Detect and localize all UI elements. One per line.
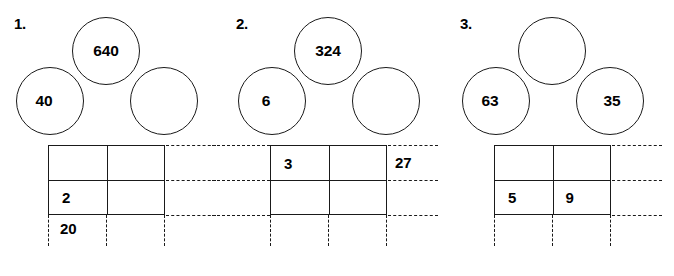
dashed-line-right-middle — [612, 180, 662, 181]
grid: 5 9 — [494, 145, 611, 215]
grid-horizontal-divider — [495, 180, 610, 181]
dashed-line-right-top — [612, 145, 662, 146]
circle-right[interactable] — [352, 67, 420, 135]
dashed-line-right-bottom — [388, 215, 438, 216]
circle-top[interactable]: 324 — [294, 17, 362, 85]
problem-3: 3. 63 35 5 9 — [446, 0, 671, 276]
problem-2: 2. 324 6 3 — [222, 0, 447, 276]
grid-cell-bottom-right[interactable]: 9 — [553, 180, 611, 214]
dashed-line-bottom-2 — [328, 215, 329, 246]
dashed-line-left-top — [212, 145, 270, 146]
dashed-line-right-bottom — [166, 215, 216, 216]
dashed-line-right-bottom — [612, 215, 662, 216]
dashed-line-left-bottom — [212, 215, 270, 216]
circle-top[interactable] — [518, 17, 586, 85]
dashed-line-left-middle — [212, 180, 270, 181]
problem-1: 1. 640 40 2 20 — [0, 0, 225, 276]
grid-horizontal-divider — [49, 180, 164, 181]
dashed-line-right-top — [388, 145, 438, 146]
worksheet: 1. 640 40 2 20 — [0, 0, 674, 276]
dashed-line-bottom-1 — [494, 215, 495, 246]
grid-horizontal-divider — [271, 180, 386, 181]
grid-cell-bottom-left[interactable]: 5 — [495, 180, 553, 214]
circle-top-value: 640 — [93, 43, 118, 59]
circle-left-value: 40 — [36, 93, 53, 109]
circle-top[interactable]: 640 — [72, 17, 140, 85]
dashed-line-right-middle — [166, 180, 216, 181]
circle-top-value: 324 — [315, 43, 340, 59]
grid-cell-bottom-right[interactable] — [329, 180, 387, 214]
grid-cell-bottom-left[interactable]: 2 — [49, 180, 107, 214]
circle-left-value: 63 — [482, 93, 499, 109]
dashed-line-bottom-3 — [164, 215, 165, 246]
grid-cell-bottom-left[interactable] — [271, 180, 329, 214]
circle-left[interactable]: 6 — [238, 67, 306, 135]
right-label: 27 — [395, 155, 411, 170]
grid: 2 — [48, 145, 165, 215]
dashed-line-bottom-3 — [610, 215, 611, 246]
circle-left-value: 6 — [262, 93, 270, 109]
grid-cell-top-left[interactable]: 3 — [271, 146, 329, 180]
dashed-line-bottom-2 — [106, 215, 107, 246]
grid-cell-top-right[interactable] — [553, 146, 611, 180]
grid-cell-top-left[interactable] — [49, 146, 107, 180]
dashed-line-bottom-2 — [552, 215, 553, 246]
circle-right[interactable] — [130, 67, 198, 135]
dashed-line-right-top — [166, 145, 216, 146]
dashed-line-bottom-1 — [270, 215, 271, 246]
grid: 3 — [270, 145, 387, 215]
circle-right-value: 35 — [604, 93, 621, 109]
grid-cell-top-left[interactable] — [495, 146, 553, 180]
dashed-line-right-middle — [388, 180, 438, 181]
grid-cell-top-right[interactable] — [107, 146, 165, 180]
grid-cell-top-right[interactable] — [329, 146, 387, 180]
dashed-line-bottom-1 — [48, 215, 49, 246]
dashed-line-bottom-3 — [386, 215, 387, 246]
grid-cell-bottom-right[interactable] — [107, 180, 165, 214]
circle-left[interactable]: 63 — [462, 67, 530, 135]
circle-left[interactable]: 40 — [16, 67, 84, 135]
bottom-label: 20 — [60, 221, 76, 236]
circle-right[interactable]: 35 — [576, 67, 644, 135]
